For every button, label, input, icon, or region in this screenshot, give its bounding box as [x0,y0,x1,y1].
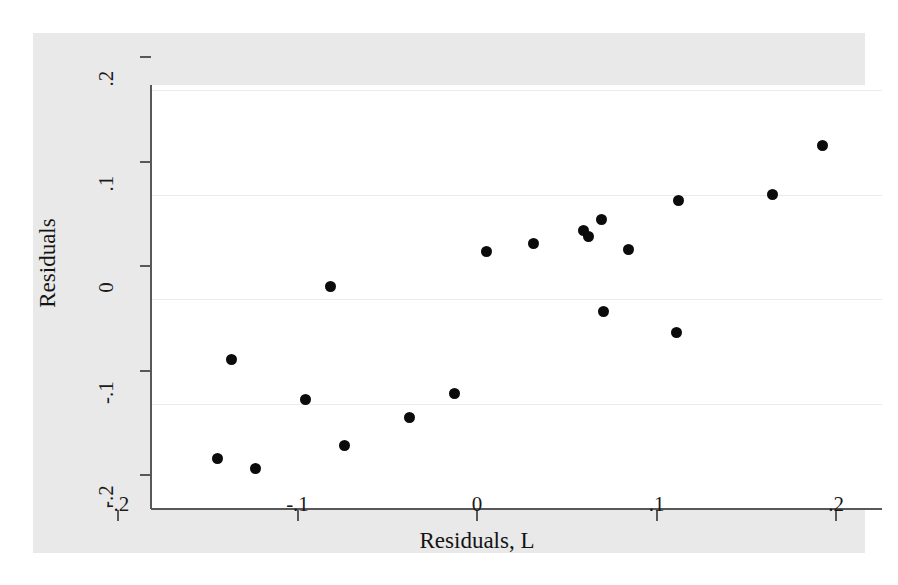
scatter-point [339,440,350,451]
scatter-point [673,195,684,206]
scatter-point [817,140,828,151]
x-axis-line [151,508,882,510]
y-axis-line [150,85,152,509]
x-tick-label-1: -.1 [286,492,309,517]
scatter-point [596,214,607,225]
figure: -.2-.10.1.2 -.2-.10.1.2 Residuals Residu… [0,0,898,585]
gridline-y-2 [151,299,882,300]
x-tick-label-4: .2 [828,492,844,517]
y-tick-2 [140,265,151,267]
scatter-point [250,463,261,474]
scatter-point [481,246,492,257]
scatter-point [300,394,311,405]
x-tick-label-3: .1 [649,492,665,517]
x-tick-label-0: -.2 [107,492,130,517]
scatter-point [528,238,539,249]
scatter-point [325,281,336,292]
x-axis-title: Residuals, L [420,528,535,554]
scatter-point [671,327,682,338]
scatter-point [583,231,594,242]
y-tick-label-3: .1 [94,161,119,205]
x-tick-label-2: 0 [472,492,483,517]
y-tick-4 [140,56,151,58]
y-tick-0 [140,474,151,476]
y-axis-title: Residuals [35,163,61,363]
scatter-point [623,244,634,255]
scatter-point [212,453,223,464]
y-tick-label-1: -.1 [94,370,119,414]
gridline-y-1 [151,404,882,405]
plot-area [151,85,882,508]
scatter-point [449,388,460,399]
y-tick-1 [140,370,151,372]
scatter-point [226,354,237,365]
y-tick-label-4: .2 [94,57,119,101]
y-tick-3 [140,161,151,163]
scatter-point [767,189,778,200]
y-tick-label-2: 0 [94,266,119,310]
graph-region: -.2-.10.1.2 -.2-.10.1.2 Residuals Residu… [33,33,865,553]
scatter-point [404,412,415,423]
gridline-y-4 [151,90,882,91]
scatter-point [598,306,609,317]
